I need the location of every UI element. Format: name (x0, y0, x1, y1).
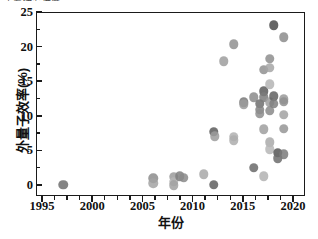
scatter-points-layer (37, 13, 304, 195)
scatter-point (239, 100, 249, 110)
y-minor-tick-mark (36, 29, 40, 30)
scatter-point (255, 109, 265, 119)
x-minor-tick-mark (217, 196, 218, 200)
x-tick-label: 2020 (268, 200, 318, 213)
scatter-point (58, 180, 68, 190)
scatter-point (269, 21, 279, 31)
x-tick-label: 1995 (17, 200, 67, 213)
scatter-point (219, 57, 229, 67)
scatter-point (169, 180, 179, 190)
x-minor-tick-mark (267, 196, 268, 200)
scatter-point (269, 99, 279, 109)
scatter-point (210, 131, 220, 141)
y-tick-label: 0 (3, 179, 33, 192)
y-axis-title: 外量子效率(%) (16, 51, 29, 171)
scatter-point (279, 32, 289, 42)
x-tick-label: 2005 (117, 200, 167, 213)
scatter-point (259, 171, 269, 181)
y-minor-tick-mark (36, 63, 40, 64)
x-tick-label: 2015 (218, 200, 268, 213)
scatter-point (259, 124, 269, 134)
y-tick-label: 25 (3, 6, 33, 19)
y-tick-mark (36, 46, 42, 48)
y-minor-tick-mark (36, 98, 40, 99)
chart-figure: 主要研究进展 0510152025 1995200020052010201520… (0, 0, 318, 239)
scatter-point (279, 97, 289, 107)
scatter-point (209, 180, 219, 190)
scatter-point (265, 63, 275, 73)
scatter-point (249, 163, 259, 173)
scatter-point (229, 39, 239, 49)
scatter-point (279, 124, 289, 134)
y-minor-tick-mark (36, 132, 40, 133)
y-tick-mark (36, 184, 42, 186)
y-tick-mark (36, 11, 42, 13)
x-tick-label: 2000 (67, 200, 117, 213)
scatter-point (229, 136, 239, 146)
y-tick-mark (36, 150, 42, 152)
scatter-point (279, 149, 289, 159)
x-minor-tick-mark (117, 196, 118, 200)
x-axis-title: 年份 (36, 216, 305, 229)
y-minor-tick-mark (36, 167, 40, 168)
scatter-point (279, 110, 289, 120)
x-minor-tick-mark (167, 196, 168, 200)
x-tick-label: 2010 (168, 200, 218, 213)
scatter-point (179, 173, 189, 183)
x-minor-tick-mark (66, 196, 67, 200)
y-tick-mark (36, 115, 42, 117)
plot-frame (36, 12, 305, 196)
scatter-point (149, 178, 159, 188)
y-tick-mark (36, 80, 42, 82)
scatter-point (265, 79, 275, 89)
scatter-point (199, 169, 209, 179)
